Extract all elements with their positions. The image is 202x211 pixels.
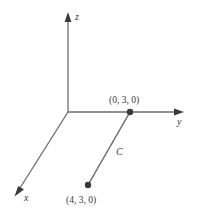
- z-axis-label: z: [74, 11, 79, 22]
- x-axis-line: [20, 112, 68, 188]
- point-lower-group: (4, 3, 0): [66, 182, 96, 206]
- x-axis-arrowhead: [15, 186, 25, 197]
- point-lower-marker: [85, 182, 91, 188]
- segment-c: C: [88, 112, 130, 185]
- point-lower-label: (4, 3, 0): [66, 195, 96, 206]
- segment-c-label: C: [116, 146, 123, 157]
- x-axis: x: [15, 112, 69, 203]
- coordinate-diagram: z y x C (0, 3, 0) (4, 3, 0): [0, 0, 202, 211]
- point-upper-label: (0, 3, 0): [109, 95, 139, 106]
- point-upper-marker: [127, 109, 133, 115]
- y-axis-arrowhead: [174, 109, 184, 116]
- diagram-canvas: z y x C (0, 3, 0) (4, 3, 0): [0, 0, 202, 211]
- z-axis-arrowhead: [65, 12, 72, 22]
- x-axis-label: x: [23, 192, 29, 203]
- z-axis: z: [65, 11, 79, 112]
- y-axis-label: y: [176, 116, 182, 127]
- segment-c-line: [88, 112, 130, 185]
